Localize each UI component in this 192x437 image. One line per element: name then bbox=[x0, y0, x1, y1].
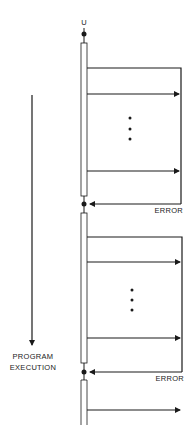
junction-node bbox=[82, 202, 87, 207]
ellipsis-dot bbox=[131, 309, 134, 312]
error-path bbox=[87, 68, 181, 204]
execution-bar bbox=[81, 43, 87, 196]
execution-label-line2: EXECUTION bbox=[10, 363, 56, 372]
junction-node bbox=[82, 370, 87, 375]
ellipsis-dot bbox=[129, 138, 132, 141]
execution-label-line1: PROGRAM bbox=[13, 352, 54, 361]
error-label: ERROR bbox=[154, 206, 183, 215]
error-label: ERROR bbox=[155, 374, 184, 383]
block-3 bbox=[81, 380, 180, 425]
ellipsis-dot bbox=[131, 289, 134, 292]
ellipsis-dot bbox=[129, 128, 132, 131]
ellipsis-dot bbox=[129, 117, 132, 120]
error-path bbox=[87, 237, 182, 372]
block-2: ERROR bbox=[81, 213, 184, 383]
program-execution-diagram: U PROGRAM EXECUTION ERROR ERROR bbox=[0, 0, 192, 437]
ellipsis-dot bbox=[131, 299, 134, 302]
block-1: ERROR bbox=[81, 43, 183, 215]
execution-bar bbox=[81, 213, 87, 363]
top-label: U bbox=[81, 18, 87, 27]
